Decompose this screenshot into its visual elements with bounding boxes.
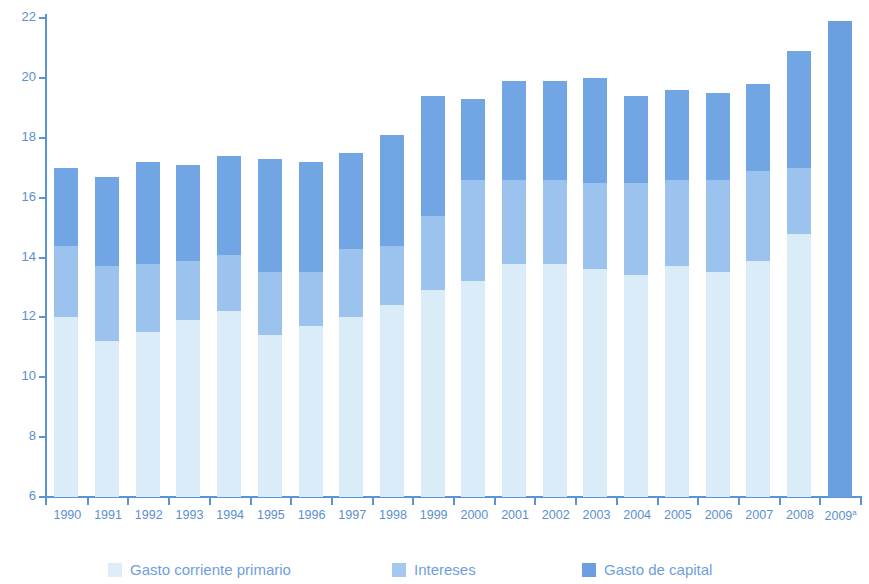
bar-segment-capital xyxy=(54,168,78,246)
bar-segment-capital xyxy=(339,153,363,249)
bar-2000[interactable] xyxy=(461,18,485,497)
bar-1993[interactable] xyxy=(176,18,200,497)
bar-2008[interactable] xyxy=(787,18,811,497)
x-axis-tick-label: 1991 xyxy=(94,508,122,522)
x-axis-tick xyxy=(453,497,455,505)
bar-segment-capital xyxy=(502,81,526,180)
y-axis-tick-label: 8 xyxy=(8,428,36,443)
legend-label-intereses: Intereses xyxy=(414,561,476,578)
x-axis-tick xyxy=(616,497,618,505)
x-axis-tick-label: 2003 xyxy=(583,508,611,522)
bar-segment-intereses xyxy=(299,272,323,326)
x-axis-tick xyxy=(168,497,170,505)
bar-segment-intereses xyxy=(176,261,200,321)
bar-segment-intereses xyxy=(95,266,119,341)
bar-2006[interactable] xyxy=(706,18,730,497)
legend-item-gasto-de-capital[interactable]: Gasto de capital xyxy=(582,561,712,578)
bar-2009[interactable] xyxy=(828,18,852,497)
x-axis-tick-label: 2008 xyxy=(786,508,814,522)
bar-segment-primario xyxy=(706,272,730,497)
x-axis-tick-label: 1995 xyxy=(257,508,285,522)
x-axis-tick-label: 2000 xyxy=(460,508,488,522)
bar-2005[interactable] xyxy=(665,18,689,497)
bar-segment-capital xyxy=(217,156,241,255)
y-axis-tick-label: 16 xyxy=(8,189,36,204)
x-axis-tick xyxy=(819,497,821,505)
bar-segment-primario xyxy=(176,320,200,497)
x-axis-tick xyxy=(290,497,292,505)
bar-segment-primario xyxy=(461,281,485,497)
x-axis-tick-label: 2007 xyxy=(745,508,773,522)
bar-segment-intereses xyxy=(339,249,363,318)
bar-segment-capital xyxy=(461,99,485,180)
x-axis-tick xyxy=(87,497,89,505)
bar-1990[interactable] xyxy=(54,18,78,497)
bar-segment-primario xyxy=(665,266,689,497)
x-axis-tick xyxy=(860,497,862,505)
legend-swatch-icon-capital xyxy=(582,563,596,577)
bar-2003[interactable] xyxy=(583,18,607,497)
x-axis-tick xyxy=(738,497,740,505)
bar-segment-intereses xyxy=(665,180,689,267)
bar-segment-primario xyxy=(339,317,363,497)
x-axis-tick-label: 2006 xyxy=(705,508,733,522)
bar-segment-primario xyxy=(54,317,78,497)
x-axis-tick-label: 2004 xyxy=(623,508,651,522)
legend-item-intereses[interactable]: Intereses xyxy=(392,561,476,578)
y-axis-tick-label: 12 xyxy=(8,308,36,323)
bar-segment-primario xyxy=(136,332,160,497)
legend-label-primario: Gasto corriente primario xyxy=(130,561,291,578)
bar-segment-capital xyxy=(421,96,445,216)
bar-1992[interactable] xyxy=(136,18,160,497)
x-axis-tick-label: 1992 xyxy=(135,508,163,522)
x-axis-tick xyxy=(250,497,252,505)
bar-segment-primario xyxy=(380,305,404,497)
bar-segment-intereses xyxy=(54,246,78,318)
bar-segment-primario xyxy=(624,275,648,497)
bar-segment-capital xyxy=(176,165,200,261)
bar-1998[interactable] xyxy=(380,18,404,497)
x-axis-tick xyxy=(657,497,659,505)
bar-segment-capital xyxy=(706,93,730,180)
x-axis-tick xyxy=(534,497,536,505)
bar-segment-capital xyxy=(665,90,689,180)
bar-segment-capital xyxy=(299,162,323,273)
bar-segment-primario xyxy=(95,341,119,497)
x-axis-tick-label: 1994 xyxy=(216,508,244,522)
x-axis-tick xyxy=(779,497,781,505)
legend-item-gasto-corriente-primario[interactable]: Gasto corriente primario xyxy=(108,561,291,578)
x-axis-tick-label: 1993 xyxy=(176,508,204,522)
bar-1996[interactable] xyxy=(299,18,323,497)
bar-segment-primario xyxy=(502,264,526,498)
x-axis-tick xyxy=(127,497,129,505)
bar-segment-intereses xyxy=(543,180,567,264)
bar-2001[interactable] xyxy=(502,18,526,497)
bar-2007[interactable] xyxy=(746,18,770,497)
x-axis-tick-label: 2002 xyxy=(542,508,570,522)
bar-segment-capital xyxy=(746,84,770,171)
bar-segment-primario xyxy=(583,269,607,497)
bar-segment-intereses xyxy=(706,180,730,273)
bar-segment-intereses xyxy=(787,168,811,234)
y-axis-tick-label: 22 xyxy=(8,9,36,24)
bar-segment-primario xyxy=(787,234,811,497)
bar-1995[interactable] xyxy=(258,18,282,497)
bar-1991[interactable] xyxy=(95,18,119,497)
bar-1999[interactable] xyxy=(421,18,445,497)
x-axis-tick-label: 1997 xyxy=(338,508,366,522)
legend-swatch-icon-primario xyxy=(108,563,122,577)
x-axis-tick xyxy=(412,497,414,505)
bar-segment-intereses xyxy=(461,180,485,282)
y-axis-tick-label: 6 xyxy=(8,488,36,503)
bar-segment-projection xyxy=(828,21,852,497)
x-axis-tick xyxy=(372,497,374,505)
bar-1997[interactable] xyxy=(339,18,363,497)
bar-segment-intereses xyxy=(746,171,770,261)
bar-segment-capital xyxy=(95,177,119,267)
bar-2004[interactable] xyxy=(624,18,648,497)
bar-2002[interactable] xyxy=(543,18,567,497)
x-axis-tick-label: 1990 xyxy=(53,508,81,522)
bar-segment-primario xyxy=(421,290,445,497)
bar-1994[interactable] xyxy=(217,18,241,497)
legend-label-capital: Gasto de capital xyxy=(604,561,712,578)
